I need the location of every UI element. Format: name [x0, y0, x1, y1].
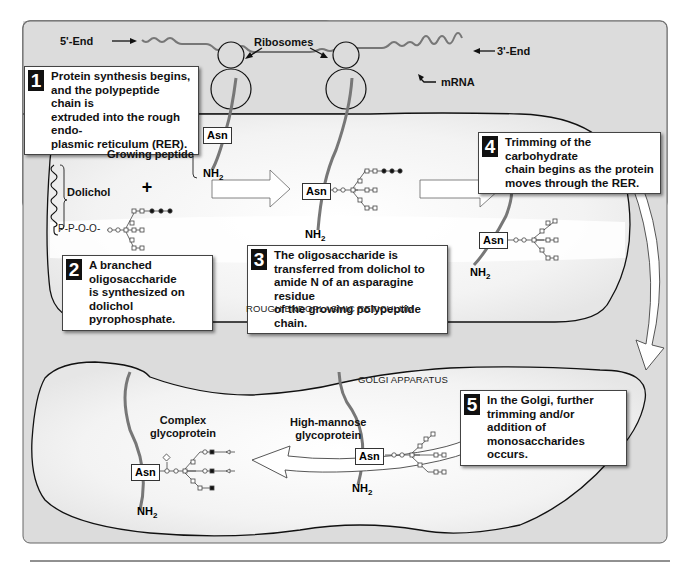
step-number: 5 [464, 394, 480, 415]
step-text: In the Golgi, further trimming and/or ad… [487, 394, 620, 462]
five-prime-end-label: 5'-End [60, 35, 93, 48]
glycoprotein-synthesis-figure: + 5'-End Ribosomes 3'-End mRNA 1 Protein… [0, 0, 692, 571]
ribosomes-label: Ribosomes [254, 36, 313, 49]
step-5-callout: 5 In the Golgi, further trimming and/or … [460, 390, 627, 466]
step-text: Protein synthesis begins, and the polype… [51, 70, 192, 151]
nh2-terminus-2: NH2 [305, 228, 325, 243]
asn-residue-3: Asn [479, 232, 508, 249]
step-text: Trimming of the carbohydrate chain begin… [505, 136, 654, 190]
step-text: A branched oligosaccharide is synthesize… [89, 259, 206, 327]
pyrophosphate-label: P-P-O-O- [58, 223, 100, 234]
nh2-terminus-1: NH2 [203, 167, 223, 182]
golgi-label: GOLGI APPARATUS [358, 374, 448, 385]
asn-residue-1: Asn [203, 127, 232, 144]
nh2-terminus-4: NH2 [137, 505, 157, 520]
step-1-callout: 1 Protein synthesis begins, and the poly… [24, 66, 199, 155]
high-mannose-glycoprotein-label: High-mannose glycoprotein [290, 416, 366, 441]
plus-sign: + [142, 177, 153, 197]
step-number: 1 [28, 70, 44, 91]
step-2-callout: 2 A branched oligosaccharide is synthesi… [62, 255, 213, 331]
asn-residue-4: Asn [131, 464, 160, 481]
dolichol-label: Dolichol [67, 186, 110, 199]
growing-peptide-label: Growing peptide [107, 148, 194, 161]
step-number: 3 [251, 249, 267, 270]
step-number: 4 [482, 136, 498, 157]
step-number: 2 [66, 259, 82, 280]
step-3-callout: 3 The oligosaccharide is transferred fro… [247, 245, 448, 334]
asn-residue-2: Asn [302, 183, 331, 200]
rer-label: ROUGH ENDOPLASMIC RETICULUM [246, 303, 414, 314]
nh2-terminus-5: NH2 [352, 482, 372, 497]
nh2-terminus-3: NH2 [470, 266, 490, 281]
three-prime-end-label: 3'-End [497, 45, 530, 58]
mrna-label: mRNA [441, 76, 475, 89]
step-4-callout: 4 Trimming of the carbohydrate chain beg… [478, 132, 661, 194]
step-text: The oligosaccharide is transferred from … [274, 249, 441, 330]
asn-residue-5: Asn [355, 448, 384, 465]
complex-glycoprotein-label: Complex glycoprotein [150, 414, 216, 439]
